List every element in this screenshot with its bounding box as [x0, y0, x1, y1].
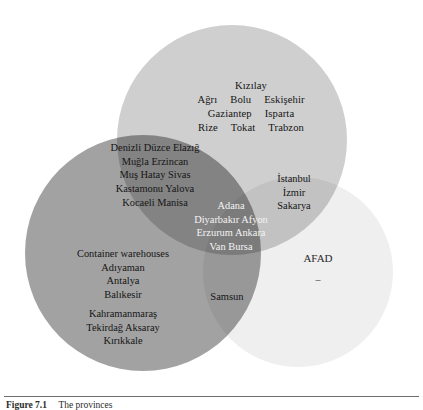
- region-top-only-line-3: Gaziantep Isparta: [178, 107, 324, 121]
- region-top-only-line-2-c: Eskişehir: [264, 93, 304, 107]
- region-top-left-line-3: Muş Hatay Sivas: [88, 168, 222, 182]
- venn-labels-group: Kızılay Ağrı Bolu Eskişehir Gaziantep Is…: [0, 0, 423, 410]
- region-left-only-line-6: Tekirdağ Aksaray: [50, 321, 196, 335]
- region-top-right-line-2: İzmir: [258, 186, 330, 200]
- region-left-only-line-5: Kahramanmaraş: [50, 307, 196, 321]
- region-top-only-line-4-b: Tokat: [231, 121, 255, 135]
- region-right-only-line-1: AFAD: [273, 251, 363, 266]
- region-top-only-line-4-c: Trabzon: [268, 121, 304, 135]
- region-left-only-line-1: Container warehouses: [50, 247, 196, 261]
- caption-divider-rule: [4, 396, 419, 397]
- figure-caption: Figure 7.1 The provinces: [6, 400, 416, 410]
- region-top-only-line-1: Kızılay: [178, 79, 324, 93]
- region-left-only-line-2: Adıyaman: [50, 261, 196, 275]
- region-label-left-only: Container warehouses Adıyaman Antalya Ba…: [50, 247, 196, 348]
- region-left-only-line-7: Kırıkkale: [50, 334, 196, 348]
- region-center-line-3: Erzurum Ankara: [178, 226, 284, 240]
- region-left-only-line-4: Balıkesir: [50, 288, 196, 302]
- region-top-only-line-2-a: Ağrı: [197, 93, 217, 107]
- region-center-line-2: Diyarbakır Afyon: [178, 213, 284, 227]
- figure-caption-number: Figure 7.1: [6, 400, 47, 410]
- region-label-right-only: AFAD –: [273, 251, 363, 286]
- region-left-only-line-3: Antalya: [50, 274, 196, 288]
- region-center-line-1: Adana: [178, 199, 284, 213]
- venn-diagram-figure: Kızılay Ağrı Bolu Eskişehir Gaziantep Is…: [0, 0, 423, 410]
- region-top-only-line-3-a: Gaziantep: [208, 107, 252, 121]
- region-top-only-line-4-a: Rize: [198, 121, 218, 135]
- region-top-only-line-3-b: Isparta: [265, 107, 295, 121]
- region-top-only-line-4: Rize Tokat Trabzon: [178, 121, 324, 135]
- region-top-only-line-2-b: Bolu: [230, 93, 251, 107]
- region-top-left-line-4: Kastamonu Yalova: [88, 182, 222, 196]
- region-label-center-all-three: Adana Diyarbakır Afyon Erzurum Ankara Va…: [178, 199, 284, 254]
- region-top-only-line-2: Ağrı Bolu Eskişehir: [178, 93, 324, 107]
- region-left-right-line-1: Samsun: [181, 290, 273, 304]
- region-right-only-dash: –: [273, 273, 363, 286]
- region-label-top-only: Kızılay Ağrı Bolu Eskişehir Gaziantep Is…: [178, 79, 324, 135]
- region-top-right-line-1: İstanbul: [258, 172, 330, 186]
- region-label-left-right-overlap: Samsun: [181, 290, 273, 304]
- region-top-left-line-2: Muğla Erzincan: [88, 155, 222, 169]
- region-top-left-line-1: Denizli Düzce Elazığ: [88, 141, 222, 155]
- figure-caption-text: The provinces: [58, 400, 112, 410]
